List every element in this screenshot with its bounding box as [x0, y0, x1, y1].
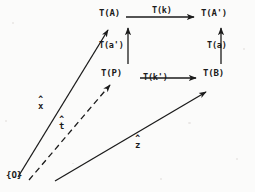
vector-symbol-x: x [38, 102, 43, 111]
vector-label-t-hat: ^ t [59, 118, 64, 131]
edge-label-tk: T(k) [152, 5, 172, 15]
edge-label-ta: T(a) [207, 40, 227, 50]
vector-symbol-z: z [135, 141, 140, 150]
scan-speckle [243, 48, 245, 50]
vector-label-z-hat: ^ z [135, 137, 140, 150]
scan-speckle [236, 158, 238, 160]
scan-speckle [12, 22, 14, 24]
scan-speckle [72, 163, 74, 164]
node-label-taprime: T(A') [201, 8, 227, 18]
node-label-tb: T(B) [203, 68, 224, 78]
origin-frame-label: {O} [6, 170, 22, 180]
vector-symbol-t: t [59, 122, 64, 131]
edge-label-tkprime: T(k') [143, 72, 168, 82]
scan-speckle [188, 122, 191, 124]
scan-speckle [5, 120, 7, 122]
node-label-ta: T(A) [99, 8, 120, 18]
node-label-tp: T(P) [101, 68, 122, 78]
vector-arrow-z-hat [55, 92, 206, 181]
edge-label-taprime: T(a') [99, 40, 124, 50]
vector-label-x-hat: ^ x [38, 98, 43, 111]
diagram-canvas: T(A) T(A') T(P) T(B) T(k) T(k') T(a') T(… [0, 0, 255, 192]
scan-speckle [160, 178, 162, 180]
